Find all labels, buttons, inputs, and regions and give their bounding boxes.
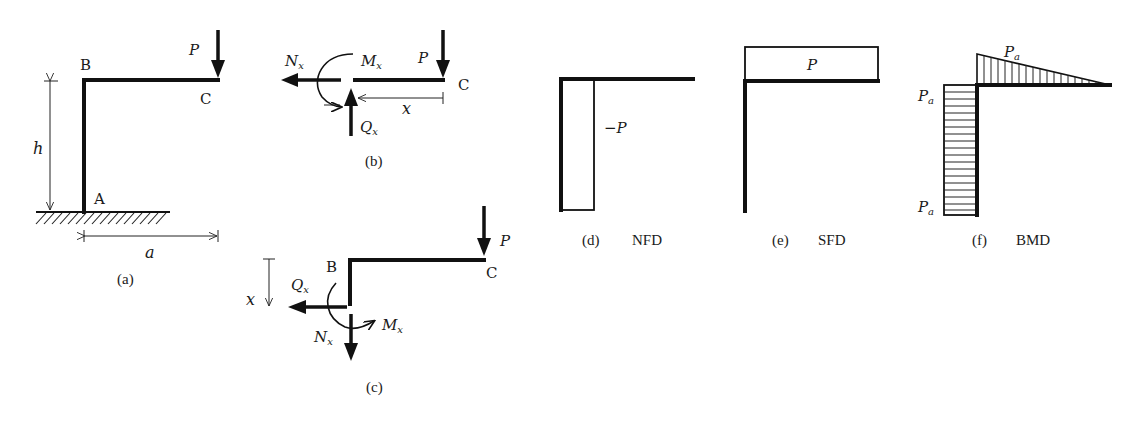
arrowhead-icon xyxy=(288,300,306,314)
sfd-value-label: P xyxy=(806,56,818,74)
caption-d: (d) xyxy=(582,232,600,249)
label-c: C xyxy=(458,76,469,94)
diagram-title-bmd: BMD xyxy=(1016,232,1050,248)
label-h: h xyxy=(33,139,43,158)
caption-c: (c) xyxy=(366,379,383,396)
diagram-canvas: B C A P h a (a) P C Nx Mx Qx x (b) xyxy=(0,0,1140,422)
label-p: P xyxy=(499,232,511,250)
arrowhead-icon xyxy=(436,60,450,78)
label-b: B xyxy=(326,258,337,276)
panel-a-frame: B C A P h a (a) xyxy=(33,30,225,288)
label-p: P xyxy=(188,41,200,59)
label-b: B xyxy=(80,56,91,74)
arrowhead-icon xyxy=(344,88,358,106)
caption-b: (b) xyxy=(365,153,383,170)
arrowhead-icon xyxy=(477,238,491,256)
panel-e-shear-force-diagram: P (e) SFD xyxy=(745,47,878,249)
label-qx: Qx xyxy=(291,276,309,295)
frame-baseline xyxy=(561,79,693,210)
label-mx: Mx xyxy=(381,316,403,335)
label-a-length: a xyxy=(145,243,155,262)
diagram-title-sfd: SFD xyxy=(818,232,846,248)
panel-b-free-body: P C Nx Mx Qx x (b) xyxy=(281,30,469,170)
label-p: P xyxy=(417,49,429,67)
panel-d-normal-force-diagram: −P (d) NFD xyxy=(561,79,693,249)
moment-triangle-beam xyxy=(977,54,1110,85)
arrowhead-icon xyxy=(281,73,298,87)
frame-baseline xyxy=(977,85,1110,215)
moment-block-column xyxy=(944,85,977,215)
figure-frame-diagrams: B C A P h a (a) P C Nx Mx Qx x (b) xyxy=(0,0,1140,422)
label-nx: Nx xyxy=(313,328,333,347)
caption-f: (f) xyxy=(972,232,987,249)
caption-e: (e) xyxy=(772,232,789,249)
panel-f-bending-moment-diagram: Pa Pa Pa (f) BMD xyxy=(917,43,1110,249)
ground-hatch xyxy=(36,213,166,224)
nfd-value-label: −P xyxy=(604,119,628,137)
label-c: C xyxy=(200,90,211,108)
bmd-label-top: Pa xyxy=(1003,43,1020,62)
member-bc-with-stub xyxy=(350,260,484,304)
caption-a: (a) xyxy=(117,271,134,288)
label-x: x xyxy=(402,99,411,118)
arrowhead-icon xyxy=(344,343,358,361)
label-x: x xyxy=(246,290,255,309)
label-qx: Qx xyxy=(360,118,378,137)
normal-force-block xyxy=(561,79,594,210)
bmd-label-corner: Pa xyxy=(917,87,934,106)
label-mx: Mx xyxy=(360,52,382,71)
bmd-label-bottom: Pa xyxy=(917,198,934,217)
label-nx: Nx xyxy=(284,52,304,71)
diagram-title-nfd: NFD xyxy=(632,232,662,248)
arrowhead-icon xyxy=(211,60,225,78)
panel-c-free-body: B C P x Qx Nx Mx (c) xyxy=(246,206,511,396)
frame-baseline xyxy=(745,81,878,211)
column-hatch xyxy=(944,92,977,210)
label-a-point: A xyxy=(93,190,105,208)
label-c: C xyxy=(486,264,497,282)
